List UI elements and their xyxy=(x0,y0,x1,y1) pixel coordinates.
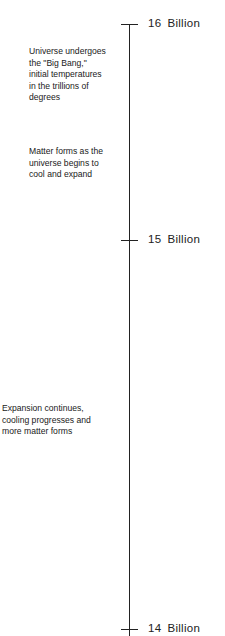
event-line: initial temperatures xyxy=(29,69,106,81)
tick-unit: Billion xyxy=(167,17,200,29)
event-line: in the trillions of xyxy=(29,81,106,93)
tick-value: 15 xyxy=(148,233,161,245)
tick-label-15-billion: 15Billion xyxy=(148,233,200,245)
event-line: Universe undergoes xyxy=(29,46,106,58)
tick-mark-14-billion xyxy=(121,629,138,630)
event-line: Expansion continues, xyxy=(2,403,91,415)
event-big-bang: Universe undergoes the "Big Bang," initi… xyxy=(29,46,106,104)
tick-mark-15-billion xyxy=(121,240,138,241)
tick-unit: Billion xyxy=(167,233,200,245)
tick-value: 14 xyxy=(148,622,161,634)
event-line: cooling progresses and xyxy=(2,415,91,427)
tick-label-16-billion: 16Billion xyxy=(148,17,200,29)
event-matter-forms: Matter forms as the universe begins to c… xyxy=(29,146,103,181)
event-expansion-continues: Expansion continues, cooling progresses … xyxy=(2,403,91,438)
event-line: universe begins to xyxy=(29,158,103,170)
event-line: the "Big Bang," xyxy=(29,58,106,70)
tick-value: 16 xyxy=(148,17,161,29)
tick-mark-16-billion xyxy=(121,24,138,25)
event-line: degrees xyxy=(29,92,106,104)
event-line: cool and expand xyxy=(29,169,103,181)
event-line: more matter forms xyxy=(2,426,91,438)
timeline-axis-line xyxy=(129,24,130,636)
tick-unit: Billion xyxy=(167,622,200,634)
tick-label-14-billion: 14Billion xyxy=(148,622,200,634)
event-line: Matter forms as the xyxy=(29,146,103,158)
